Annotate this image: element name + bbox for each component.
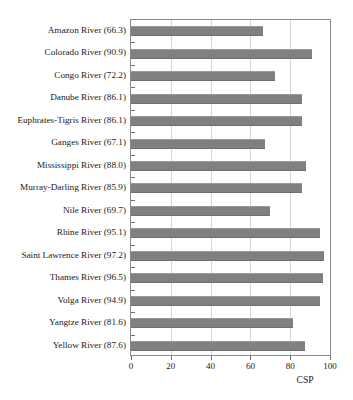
x-axis-tick-label: 100: [315, 361, 345, 371]
category-label: Yangtze River (81.6): [49, 311, 126, 333]
bar-row: [131, 87, 330, 109]
bar-row: [131, 312, 330, 334]
category-tick: [131, 155, 135, 156]
category-label: Murray-Darling River (85.9): [20, 176, 126, 198]
category-tick: [131, 42, 135, 43]
bar-row: [131, 155, 330, 177]
category-label: Colorado River (90.9): [45, 41, 126, 63]
category-tick: [131, 245, 135, 246]
bar: [131, 273, 323, 283]
bar: [131, 318, 293, 328]
plot-area: [130, 19, 331, 356]
category-label: Ganges River (67.1): [51, 131, 126, 153]
bar-row: [131, 222, 330, 244]
bar-row: [131, 335, 330, 357]
x-axis-tick-label: 20: [156, 361, 186, 371]
bar-row: [131, 65, 330, 87]
category-tick: [131, 222, 135, 223]
category-tick: [131, 110, 135, 111]
bar-row: [131, 110, 330, 132]
x-axis-tick-label: 60: [235, 361, 265, 371]
x-axis-tick: [330, 356, 331, 360]
category-axis-labels: Amazon River (66.3)Colorado River (90.9)…: [0, 19, 126, 356]
category-label: Euphrates-Tigris River (86.1): [17, 109, 126, 131]
category-tick: [131, 312, 135, 313]
category-tick: [131, 65, 135, 66]
bar-row: [131, 42, 330, 64]
x-axis-tick: [171, 356, 172, 360]
x-axis-tick-label: 40: [196, 361, 226, 371]
bar: [131, 71, 275, 81]
bar: [131, 26, 263, 36]
bar: [131, 94, 302, 104]
x-axis-tick-label: 0: [116, 361, 146, 371]
bar-row: [131, 290, 330, 312]
bar: [131, 341, 305, 351]
bar-row: [131, 267, 330, 289]
category-tick: [131, 290, 135, 291]
bar-row: [131, 132, 330, 154]
bar-row: [131, 20, 330, 42]
bar-chart: Amazon River (66.3)Colorado River (90.9)…: [0, 0, 353, 400]
x-axis-tick: [250, 356, 251, 360]
bar: [131, 183, 302, 193]
x-axis-tick: [211, 356, 212, 360]
category-tick: [131, 200, 135, 201]
category-tick: [131, 132, 135, 133]
bar: [131, 161, 306, 171]
category-label: Nile River (69.7): [63, 199, 126, 221]
category-label: Congo River (72.2): [54, 64, 126, 86]
category-label: Saint Lawrence River (97.2): [21, 244, 126, 266]
bar: [131, 116, 302, 126]
category-label: Amazon River (66.3): [48, 19, 126, 41]
bar: [131, 206, 270, 216]
x-axis-tick-label: 80: [275, 361, 305, 371]
category-tick: [131, 177, 135, 178]
bar-row: [131, 245, 330, 267]
bar-rows: [131, 20, 330, 355]
bar-row: [131, 200, 330, 222]
category-tick: [131, 335, 135, 336]
category-tick: [131, 87, 135, 88]
x-axis-title: CSP: [285, 375, 325, 385]
category-label: Volga River (94.9): [58, 289, 126, 311]
category-label: Yellow River (87.6): [53, 334, 126, 356]
category-label: Rhine River (95.1): [57, 221, 126, 243]
bar: [131, 49, 312, 59]
bar: [131, 228, 320, 238]
category-label: Mississippi River (88.0): [37, 154, 126, 176]
bar: [131, 139, 265, 149]
x-axis-tick: [131, 356, 132, 360]
category-tick: [131, 267, 135, 268]
bar: [131, 251, 324, 261]
category-label: Danube River (86.1): [50, 86, 126, 108]
x-axis-tick: [290, 356, 291, 360]
bar-row: [131, 177, 330, 199]
bar: [131, 296, 320, 306]
category-label: Thames River (96.5): [50, 266, 126, 288]
